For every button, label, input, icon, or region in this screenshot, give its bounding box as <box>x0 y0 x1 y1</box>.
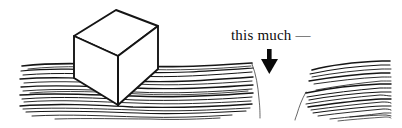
down-arrow-icon <box>261 49 278 74</box>
displacement-figure: this much — <box>0 0 402 128</box>
floating-cube <box>74 10 158 105</box>
annotation-label: this much — <box>231 27 311 44</box>
water-surface-right <box>306 61 391 121</box>
ink-drawing <box>0 0 402 128</box>
water-displacement-gap <box>252 64 306 120</box>
